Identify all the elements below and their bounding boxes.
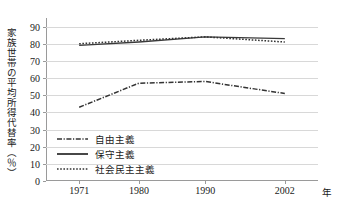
y-tick-label: 60 [14, 73, 44, 84]
x-tick-label: 1990 [195, 185, 215, 196]
x-tick-label: 2002 [275, 185, 295, 196]
x-tick-label: 1971 [69, 185, 89, 196]
legend-line-swatch [57, 166, 88, 172]
y-tick-label: 10 [14, 158, 44, 169]
legend-label: 保守主義 [95, 147, 135, 161]
y-tick-label: 30 [14, 124, 44, 135]
legend-line-swatch [57, 136, 88, 142]
legend-label: 社会民主主義 [95, 162, 155, 176]
y-tick-label: 90 [14, 21, 44, 32]
legend-item: 社会民主主義 [57, 161, 187, 176]
legend-item: 自由主義 [57, 131, 187, 146]
y-tick-label: 40 [14, 107, 44, 118]
y-tick-label: 50 [14, 90, 44, 101]
y-axis-tick-labels: 0102030405060708090 [14, 0, 44, 208]
x-tick-mark [79, 181, 80, 184]
x-tick-mark [205, 181, 206, 184]
series-line [79, 81, 285, 107]
legend-item: 保守主義 [57, 146, 187, 161]
x-tick-mark [285, 181, 286, 184]
legend-line-swatch [57, 151, 88, 157]
y-tick-label: 70 [14, 55, 44, 66]
x-tick-mark [139, 181, 140, 184]
y-tick-label: 80 [14, 38, 44, 49]
x-axis-unit-label: 年 [322, 185, 332, 199]
y-tick-label: 0 [14, 176, 44, 187]
line-chart: 家族世帯の平均所得代替率（％） 0102030405060708090 1971… [0, 0, 339, 208]
y-tick-label: 20 [14, 141, 44, 152]
x-tick-label: 1980 [129, 185, 149, 196]
legend-label: 自由主義 [95, 132, 135, 146]
y-tick-mark [43, 181, 46, 182]
chart-legend: 自由主義保守主義社会民主主義 [57, 131, 187, 176]
